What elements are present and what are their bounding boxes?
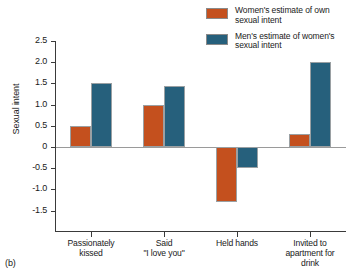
bar-women [70,126,91,147]
y-tick-mark [51,62,56,63]
x-category-label: Invited toapartment fordrink [267,238,353,269]
figure-panel-b: Women's estimate of own sexual intent Me… [0,0,353,276]
y-tick-label: -0.5 [21,162,47,172]
y-tick-label: -1.0 [21,183,47,193]
x-tick-mark [164,232,165,237]
panel-label: (b) [5,258,16,268]
x-category-label-line: "I love you" [121,248,207,258]
y-tick-label: 2.0 [21,56,47,66]
x-category-label-line: Invited to [267,238,353,248]
bar-women [216,147,237,202]
y-tick-label: 1.5 [21,77,47,87]
y-tick-mark [51,147,56,148]
bar-men [310,62,331,147]
x-axis-line [55,231,346,232]
y-axis-title: Sexual intent [11,66,21,152]
bar-men [164,86,185,147]
y-tick-label: 2.5 [21,35,47,45]
bar-women [143,105,164,147]
bar-women [289,134,310,147]
y-tick-label: -1.5 [21,205,47,215]
y-tick-mark [51,211,56,212]
x-category-label-line: drink [267,258,353,268]
x-tick-mark [91,232,92,237]
y-tick-label: 1.0 [21,99,47,109]
x-category-label-line: apartment for [267,248,353,258]
bar-men [237,147,258,168]
y-axis-line [55,41,56,232]
zero-baseline [55,147,346,148]
y-tick-mark [51,41,56,42]
y-tick-mark [51,126,56,127]
y-tick-mark [51,83,56,84]
x-tick-mark [310,232,311,237]
y-tick-mark [51,168,56,169]
y-tick-mark [51,189,56,190]
y-tick-label: 0.5 [21,120,47,130]
y-tick-label: 0 [21,141,47,151]
bar-men [91,83,112,147]
x-tick-mark [237,232,238,237]
plot-area: Sexual intent 2.52.01.51.00.50-0.5-1.0-1… [0,0,353,276]
y-tick-mark [51,105,56,106]
